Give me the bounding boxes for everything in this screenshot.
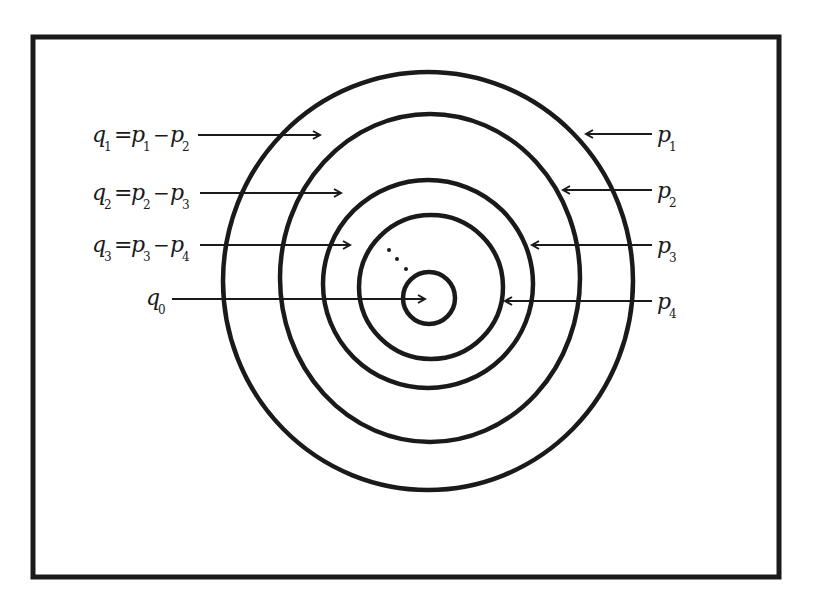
label-q3: q 3 = p 3 − p 4 — [92, 232, 190, 264]
q1-minus: − — [153, 123, 170, 147]
circle-p4 — [359, 215, 503, 359]
q2-minus: − — [153, 181, 170, 205]
label-p2: p 2 — [657, 178, 677, 210]
q2-p-second-subscript: 3 — [182, 198, 190, 212]
ellipsis-dots — [387, 248, 408, 271]
q3-p-first-subscript: 3 — [143, 250, 151, 264]
concentric-circles-diagram: q 1 = p 1 − p 2 q 2 = p 2 − p 3 q 3 = p … — [0, 0, 815, 604]
q2-equals: = — [114, 180, 132, 205]
dot — [395, 257, 399, 261]
q3-equals: = — [114, 232, 132, 257]
dot — [404, 267, 408, 271]
q3-minus: − — [153, 233, 170, 257]
p3-subscript: 3 — [669, 251, 677, 265]
q1-p-first-subscript: 1 — [143, 140, 151, 154]
q2-p-first-subscript: 2 — [143, 198, 151, 212]
label-p1: p 1 — [657, 122, 677, 154]
label-p4: p 4 — [657, 289, 677, 321]
label-p3: p 3 — [657, 233, 677, 265]
label-q2: q 2 = p 2 − p 3 — [92, 180, 190, 212]
q3-p-second-subscript: 4 — [182, 250, 190, 264]
label-q0: q 0 — [146, 285, 166, 317]
q0-subscript: 0 — [158, 303, 166, 317]
q1-p-second-subscript: 2 — [182, 140, 190, 154]
q3-subscript: 3 — [104, 250, 112, 264]
p1-subscript: 1 — [669, 140, 677, 154]
q2-subscript: 2 — [104, 198, 112, 212]
label-q1: q 1 = p 1 − p 2 — [92, 122, 190, 154]
dot — [387, 248, 391, 252]
q1-subscript: 1 — [104, 140, 112, 154]
left-arrows — [172, 135, 425, 299]
p2-subscript: 2 — [669, 196, 677, 210]
p4-subscript: 4 — [669, 307, 677, 321]
q1-equals: = — [114, 122, 132, 147]
